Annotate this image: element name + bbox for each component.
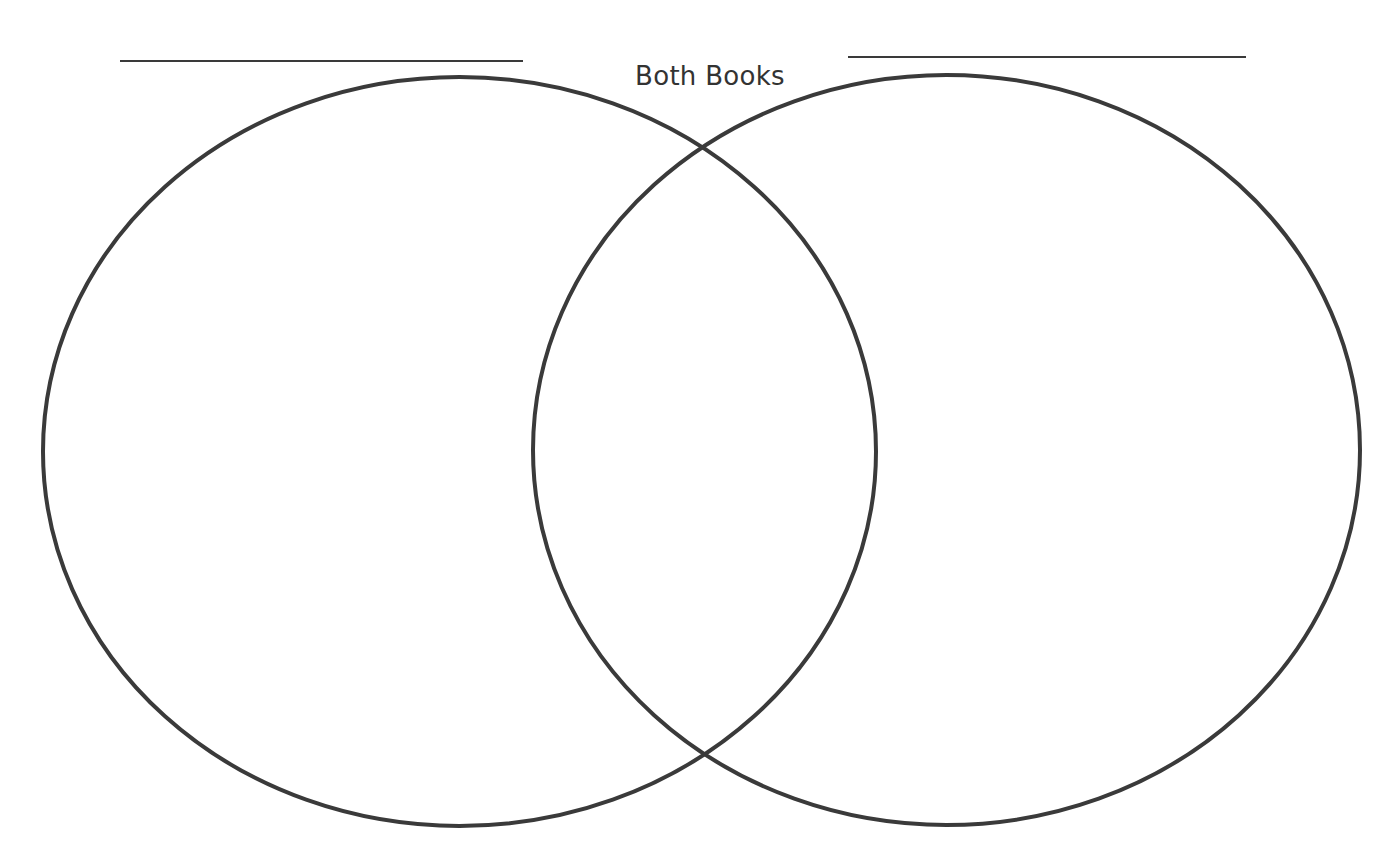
left-only-region[interactable] [90,200,510,700]
right-book-title-line[interactable] [848,56,1246,58]
right-only-region[interactable] [900,200,1320,700]
venn-diagram-page: Both Books [0,0,1394,865]
left-book-title-line[interactable] [120,60,523,62]
overlap-label: Both Books [580,56,840,96]
overlap-region[interactable] [560,200,850,700]
